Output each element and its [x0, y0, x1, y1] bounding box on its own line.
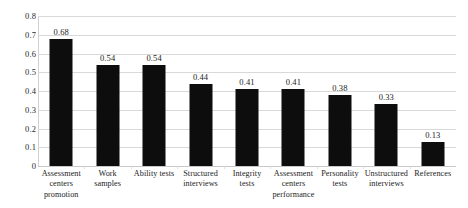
x-axis-tick — [131, 166, 132, 169]
gridline-0 — [38, 166, 456, 167]
y-tick-label: 0.3 — [2, 106, 36, 115]
x-axis-tick — [84, 166, 85, 169]
y-tick-label: 0.7 — [2, 31, 36, 40]
plot-area: 0.680.540.540.440.410.410.380.330.13 — [38, 16, 456, 166]
x-category-label: Integritytests — [224, 169, 270, 190]
x-category-label-line: Unstructured — [363, 169, 409, 179]
x-axis-tick — [270, 166, 271, 169]
x-category-label-line: centers — [38, 179, 84, 189]
bar-value-label: 0.38 — [332, 84, 347, 93]
bar[interactable] — [189, 84, 212, 167]
y-tick-label: 0.4 — [2, 87, 36, 96]
bar-value-label: 0.54 — [146, 54, 161, 63]
bar-group: 0.54 — [131, 16, 177, 166]
bar-group: 0.68 — [38, 16, 84, 166]
bar-chart: 00.10.20.30.40.50.60.70.8 0.680.540.540.… — [0, 0, 468, 208]
x-category-label-line: performance — [270, 190, 316, 200]
x-category-label-line: Assessment — [38, 169, 84, 179]
x-category-label-line: Structured — [177, 169, 223, 179]
y-tick-label: 0.1 — [2, 143, 36, 152]
x-axis-category-labels: AssessmentcenterspromotionWorksamplesAbi… — [38, 169, 456, 208]
x-category-label: Unstructuredinterviews — [363, 169, 409, 190]
bar-group: 0.41 — [224, 16, 270, 166]
y-tick-label: 0.2 — [2, 125, 36, 134]
bar-value-label: 0.41 — [239, 78, 254, 87]
bar[interactable] — [328, 95, 351, 166]
bar[interactable] — [375, 104, 398, 166]
y-axis-tick-labels: 00.10.20.30.40.50.60.70.8 — [0, 0, 36, 208]
x-category-label-line: promotion — [38, 190, 84, 200]
bar[interactable] — [282, 89, 305, 166]
y-tick-label: 0.8 — [2, 12, 36, 21]
y-tick-label: 0.6 — [2, 50, 36, 59]
bar-value-label: 0.13 — [425, 131, 440, 140]
x-category-label-line: interviews — [363, 179, 409, 189]
x-axis-tick — [224, 166, 225, 169]
bar-value-label: 0.41 — [286, 78, 301, 87]
bar-value-label: 0.68 — [54, 28, 69, 37]
bar-value-label: 0.44 — [193, 73, 208, 82]
bar-group: 0.41 — [270, 16, 316, 166]
x-category-label: References — [410, 169, 456, 179]
x-category-label-line: tests — [224, 179, 270, 189]
bar[interactable] — [421, 142, 444, 166]
bar-group: 0.13 — [410, 16, 456, 166]
x-category-label-line: Work — [84, 169, 130, 179]
x-category-label: Ability tests — [131, 169, 177, 179]
x-axis-tick — [363, 166, 364, 169]
x-axis-tick — [410, 166, 411, 169]
x-category-label-line: centers — [270, 179, 316, 189]
x-category-label: Personalitytests — [317, 169, 363, 190]
bar[interactable] — [235, 89, 258, 166]
x-category-label: Structuredinterviews — [177, 169, 223, 190]
bar-group: 0.44 — [177, 16, 223, 166]
x-category-label: Assessmentcenterspromotion — [38, 169, 84, 200]
x-axis-tick — [177, 166, 178, 169]
x-category-label-line: Ability tests — [131, 169, 177, 179]
x-category-label-line: tests — [317, 179, 363, 189]
x-category-label-line: Personality — [317, 169, 363, 179]
x-category-label-line: Assessment — [270, 169, 316, 179]
x-category-label: Worksamples — [84, 169, 130, 190]
bar[interactable] — [143, 65, 166, 166]
bar-value-label: 0.33 — [379, 93, 394, 102]
bar-group: 0.38 — [317, 16, 363, 166]
x-category-label-line: Integrity — [224, 169, 270, 179]
bar-group: 0.54 — [84, 16, 130, 166]
y-tick-label: 0 — [2, 162, 36, 171]
x-axis-tick — [317, 166, 318, 169]
bar-group: 0.33 — [363, 16, 409, 166]
x-category-label-line: References — [410, 169, 456, 179]
bar-value-label: 0.54 — [100, 54, 115, 63]
x-category-label-line: interviews — [177, 179, 223, 189]
x-category-label: Assessmentcentersperformance — [270, 169, 316, 200]
x-category-label-line: samples — [84, 179, 130, 189]
y-tick-label: 0.5 — [2, 68, 36, 77]
bar[interactable] — [96, 65, 119, 166]
bar[interactable] — [50, 39, 73, 167]
